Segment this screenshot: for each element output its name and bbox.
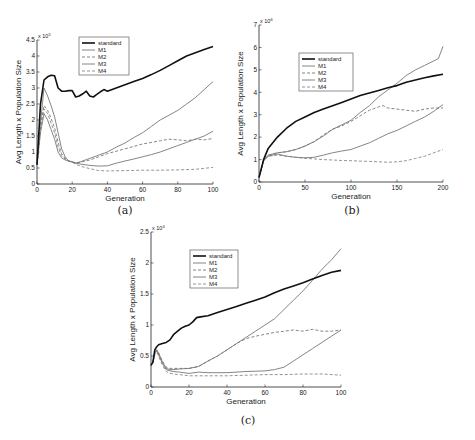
y-tick-label: 2.5 bbox=[26, 100, 35, 107]
x-tick-label: 100 bbox=[336, 389, 347, 396]
legend: standardM1M2M3M4 bbox=[190, 250, 238, 288]
y-tick-label: 1 bbox=[31, 148, 35, 155]
series-line-standard bbox=[151, 270, 341, 365]
x-tick-label: 60 bbox=[139, 186, 147, 193]
x-tick-label: 0 bbox=[35, 186, 39, 193]
x-tick-label: 100 bbox=[208, 186, 219, 193]
x-tick-label: 80 bbox=[174, 186, 182, 193]
series-line-m4 bbox=[259, 150, 443, 178]
x-tick-label: 80 bbox=[299, 389, 307, 396]
series-line-m4 bbox=[37, 109, 213, 171]
x-tick-label: 40 bbox=[223, 389, 231, 396]
y-tick-label: 7 bbox=[253, 21, 257, 28]
y-tick-label: 4.5 bbox=[26, 36, 35, 43]
figure: 02040608010000.511.522.533.544.5x 105Gen… bbox=[0, 0, 475, 440]
x-tick-label: 40 bbox=[104, 186, 112, 193]
legend-label-m1: M1 bbox=[318, 63, 327, 69]
y-tick-label: 0 bbox=[31, 180, 35, 187]
y-axis-label: Avg Length x Population Size bbox=[128, 257, 137, 362]
legend-label-m3: M3 bbox=[318, 77, 327, 83]
y-tick-label: 6 bbox=[253, 44, 257, 51]
series-line-m2 bbox=[259, 106, 443, 178]
x-tick-label: 50 bbox=[301, 184, 309, 191]
y-tick-label: 2 bbox=[31, 116, 35, 123]
x-tick-label: 0 bbox=[257, 184, 261, 191]
series-line-m1 bbox=[37, 82, 213, 165]
x-axis-label: Generation bbox=[226, 397, 266, 406]
y-axis-label: Avg Length x Population Size bbox=[14, 59, 23, 164]
legend-label-m2: M2 bbox=[209, 267, 218, 273]
y-tick-label: 2 bbox=[145, 259, 149, 266]
y-tick-label: 0 bbox=[145, 383, 149, 390]
legend-label-standard: standard bbox=[318, 56, 341, 62]
legend-label-standard: standard bbox=[98, 40, 121, 46]
axes bbox=[151, 232, 341, 387]
series-line-m1 bbox=[151, 249, 341, 370]
series-line-m3 bbox=[151, 330, 341, 373]
x-tick-label: 100 bbox=[346, 184, 357, 191]
y-tick-label: 1.5 bbox=[26, 132, 35, 139]
y-tick-label: 1 bbox=[253, 156, 257, 163]
y-multiplier-label: x 104 bbox=[152, 224, 165, 232]
y-tick-label: 0.5 bbox=[140, 352, 149, 359]
series-line-m2 bbox=[37, 106, 213, 165]
series-line-m1 bbox=[259, 105, 443, 178]
legend: standardM1M2M3M4 bbox=[299, 53, 353, 91]
x-tick-label: 200 bbox=[438, 184, 449, 191]
legend-label-m4: M4 bbox=[209, 281, 218, 287]
legend-label-m4: M4 bbox=[98, 68, 107, 74]
legend-label-m4: M4 bbox=[318, 84, 327, 90]
figure-caption-c: (c) bbox=[241, 414, 256, 427]
y-tick-label: 4 bbox=[31, 52, 35, 59]
series-line-m3 bbox=[37, 114, 213, 167]
x-tick-label: 20 bbox=[69, 186, 77, 193]
x-tick-label: 150 bbox=[392, 184, 403, 191]
figure-caption-b: (b) bbox=[344, 204, 360, 217]
legend-label-m3: M3 bbox=[209, 274, 218, 280]
y-multiplier-label: x 106 bbox=[260, 17, 273, 25]
x-tick-label: 60 bbox=[261, 389, 269, 396]
legend-label-m3: M3 bbox=[98, 61, 107, 67]
x-tick-label: 0 bbox=[149, 389, 153, 396]
y-tick-label: 3 bbox=[253, 111, 257, 118]
legend-label-m2: M2 bbox=[318, 70, 327, 76]
y-tick-label: 1.5 bbox=[140, 290, 149, 297]
legend-label-m1: M1 bbox=[209, 260, 218, 266]
chart-panel-a: 02040608010000.511.522.533.544.5x 105Gen… bbox=[14, 32, 219, 218]
y-tick-label: 1 bbox=[145, 321, 149, 328]
x-axis-label: Generation bbox=[105, 194, 145, 203]
x-tick-label: 20 bbox=[185, 389, 193, 396]
chart-panel-b: 05010015020001234567x 106GenerationAvg L… bbox=[236, 17, 449, 218]
y-tick-label: 0.5 bbox=[26, 164, 35, 171]
y-tick-label: 3.5 bbox=[26, 68, 35, 75]
figure-caption-a: (a) bbox=[117, 204, 132, 217]
y-tick-label: 2.5 bbox=[140, 228, 149, 235]
y-tick-label: 3 bbox=[31, 84, 35, 91]
y-tick-label: 2 bbox=[253, 133, 257, 140]
legend: standardM1M2M3M4 bbox=[79, 37, 129, 75]
y-tick-label: 0 bbox=[253, 178, 257, 185]
legend-label-m1: M1 bbox=[98, 47, 107, 53]
legend-label-standard: standard bbox=[209, 253, 232, 259]
y-axis-label: Avg Length x Population Size bbox=[236, 51, 245, 156]
y-tick-label: 4 bbox=[253, 89, 257, 96]
y-tick-label: 5 bbox=[253, 66, 257, 73]
y-multiplier-label: x 105 bbox=[38, 32, 51, 40]
x-axis-label: Generation bbox=[331, 192, 371, 201]
legend-label-m2: M2 bbox=[98, 54, 107, 60]
chart-panel-c: 02040608010000.511.522.5x 104GenerationA… bbox=[128, 224, 347, 428]
